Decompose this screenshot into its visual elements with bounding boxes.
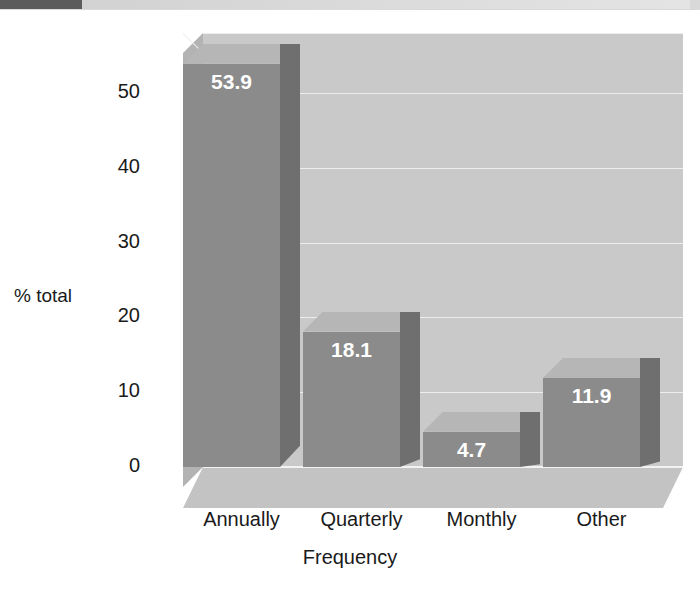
y-axis-tick-label: 0: [78, 454, 140, 477]
bar-column: 11.9: [543, 358, 660, 467]
bar-value-label: 53.9: [183, 70, 280, 94]
y-axis-tick-label: 30: [78, 230, 140, 253]
bar-value-label: 11.9: [543, 384, 640, 408]
bar-chart-3d: 53.918.14.711.9 01020304050 % total Annu…: [0, 0, 700, 590]
bar-value-label: 18.1: [303, 338, 400, 362]
y-axis-tick-label: 40: [78, 155, 140, 178]
plot-floor: [183, 467, 683, 508]
bar-side-face: [280, 44, 300, 467]
bar-value-label: 4.7: [423, 438, 520, 462]
bar-column: 53.9: [183, 44, 300, 467]
bar-column: 18.1: [303, 312, 420, 467]
x-axis-tick-label: Other: [532, 508, 672, 531]
screenshot-canvas: 53.918.14.711.9 01020304050 % total Annu…: [0, 0, 700, 590]
x-axis-tick-label: Monthly: [412, 508, 552, 531]
y-axis-tick-label: 20: [78, 304, 140, 327]
y-axis-tick-label: 10: [78, 379, 140, 402]
bar-side-face: [520, 412, 540, 467]
y-axis-tick-label: 50: [78, 80, 140, 103]
bar-side-face: [400, 312, 420, 467]
x-axis-tick-label: Annually: [172, 508, 312, 531]
y-axis-label: % total: [14, 285, 72, 307]
gridline: [203, 33, 683, 34]
bar-front-face: [183, 64, 280, 467]
bar-column: 4.7: [423, 412, 540, 467]
x-axis-label: Frequency: [0, 546, 700, 569]
bar-side-face: [640, 358, 660, 467]
x-axis-tick-label: Quarterly: [292, 508, 432, 531]
